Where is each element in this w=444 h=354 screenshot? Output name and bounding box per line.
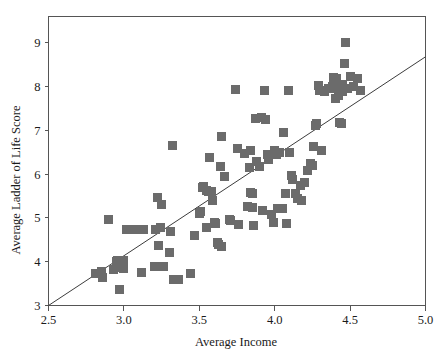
x-tick-label: 3.0 <box>116 313 132 327</box>
x-tick-label: 4.5 <box>342 313 358 327</box>
data-point-marker <box>258 206 267 215</box>
data-point-marker <box>285 148 294 157</box>
y-tick-label: 9 <box>34 36 40 50</box>
y-axis-ticks <box>45 43 49 306</box>
y-axis-title: Average Ladder of Life Score <box>9 105 23 254</box>
data-point-marker <box>165 248 174 257</box>
data-point-marker <box>248 189 257 198</box>
x-tick-label: 2.5 <box>41 313 57 327</box>
y-tick-label: 7 <box>34 124 40 138</box>
data-point-marker <box>312 119 321 128</box>
data-point-marker <box>186 269 195 278</box>
data-point-marker <box>217 242 226 251</box>
data-point-marker <box>317 146 326 155</box>
data-points <box>91 38 365 294</box>
chart-canvas: 3456789 2.53.03.54.04.55.0 Average Incom… <box>0 0 444 354</box>
x-axis-ticks <box>49 306 426 311</box>
data-point-marker <box>104 215 113 224</box>
y-tick-label: 4 <box>34 255 41 269</box>
scatter-plot-figure: 3456789 2.53.03.54.04.55.0 Average Incom… <box>0 0 444 354</box>
data-point-marker <box>190 231 199 240</box>
data-point-marker <box>281 189 290 198</box>
data-point-marker <box>150 262 159 271</box>
y-tick-label: 5 <box>34 211 40 225</box>
data-point-marker <box>297 196 306 205</box>
data-point-marker <box>261 115 270 124</box>
data-point-marker <box>119 257 128 266</box>
y-tick-label: 3 <box>34 299 40 313</box>
data-point-marker <box>248 203 257 212</box>
data-point-marker <box>159 262 168 271</box>
y-axis-tick-labels: 3456789 <box>34 36 41 313</box>
data-point-marker <box>308 161 317 170</box>
data-point-marker <box>220 172 229 181</box>
data-point-marker <box>279 128 288 137</box>
x-tick-label: 5.0 <box>418 313 434 327</box>
x-axis-tick-labels: 2.53.03.54.04.55.0 <box>41 313 434 327</box>
data-point-marker <box>157 200 166 209</box>
data-point-marker <box>278 204 287 213</box>
data-point-marker <box>249 221 258 230</box>
data-point-marker <box>340 59 349 68</box>
data-point-marker <box>139 225 148 234</box>
data-point-marker <box>156 223 165 232</box>
data-point-marker <box>174 275 183 284</box>
data-point-marker <box>196 207 205 216</box>
data-point-marker <box>284 86 293 95</box>
data-point-marker <box>341 38 350 47</box>
data-point-marker <box>115 285 124 294</box>
data-point-marker <box>356 86 365 95</box>
data-point-marker <box>269 218 278 227</box>
data-point-marker <box>154 241 163 250</box>
data-point-marker <box>137 268 146 277</box>
data-point-marker <box>231 85 240 94</box>
x-tick-label: 4.0 <box>267 313 283 327</box>
data-point-marker <box>207 187 216 196</box>
data-point-marker <box>98 273 107 282</box>
data-point-marker <box>337 119 346 128</box>
x-axis-title: Average Income <box>195 335 277 349</box>
data-point-marker <box>216 162 225 171</box>
data-point-marker <box>300 178 309 187</box>
data-point-marker <box>255 162 264 171</box>
data-point-marker <box>282 219 291 228</box>
plot-frame <box>49 17 426 306</box>
data-point-marker <box>260 86 269 95</box>
data-point-marker <box>353 74 362 83</box>
y-tick-label: 8 <box>34 80 40 94</box>
data-point-marker <box>168 141 177 150</box>
data-point-marker <box>205 153 214 162</box>
data-point-marker <box>166 227 175 236</box>
x-tick-label: 3.5 <box>191 313 207 327</box>
data-point-marker <box>217 132 226 141</box>
data-point-marker <box>211 219 220 228</box>
data-point-marker <box>208 196 217 205</box>
data-point-marker <box>234 220 243 229</box>
data-point-marker <box>246 146 255 155</box>
y-tick-label: 6 <box>34 168 40 182</box>
data-point-marker <box>275 148 284 157</box>
